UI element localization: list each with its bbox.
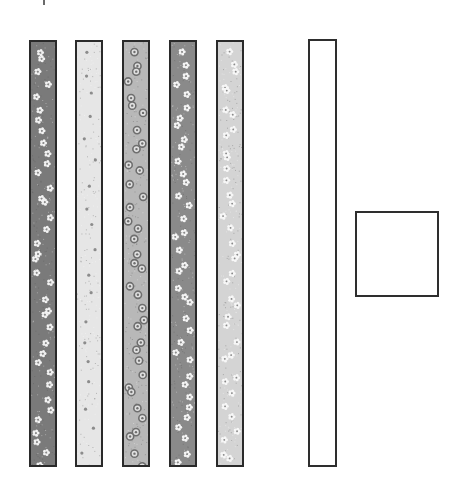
pale-grey-white-flowers-pattern	[218, 42, 242, 465]
strip-2	[75, 40, 103, 467]
blank-square-outline	[355, 211, 439, 297]
dark-speckle-white-flowers-pattern	[31, 42, 55, 465]
strip-3	[122, 40, 150, 467]
strip-5	[216, 40, 244, 467]
light-speckle-grey-dots-pattern	[77, 42, 101, 465]
blank-strip-outline	[308, 39, 337, 467]
mid-grey-ring-circles-pattern	[124, 42, 148, 465]
strip-1	[29, 40, 57, 467]
strip-4	[169, 40, 197, 467]
top-mark	[43, 0, 45, 5]
dark-grey-white-flowers-pattern	[171, 42, 195, 465]
